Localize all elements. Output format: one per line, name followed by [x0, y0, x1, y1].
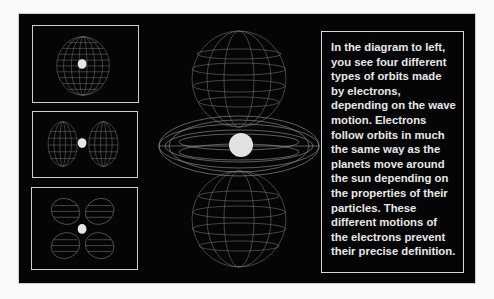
nucleus-icon — [78, 224, 87, 234]
sphere-orbital-icon — [33, 26, 138, 102]
torus-dumbbell-orbital-icon — [154, 14, 324, 284]
nucleus-icon — [78, 59, 87, 69]
diagram-panel: In the diagram to left, you see four dif… — [18, 13, 476, 284]
cloverleaf-orbital-icon — [32, 188, 137, 269]
description-box: In the diagram to left, you see four dif… — [321, 31, 464, 273]
nucleus-icon — [78, 138, 87, 148]
thumbnail-cloverleaf-orbital — [31, 187, 138, 270]
description-text: In the diagram to left, you see four dif… — [331, 40, 457, 259]
dumbbell-orbital-icon — [33, 112, 137, 177]
thumbnail-sphere-orbital — [32, 25, 139, 103]
thumbnail-dumbbell-orbital — [32, 111, 138, 178]
nucleus-icon — [229, 133, 253, 157]
main-orbital-figure — [154, 14, 324, 284]
